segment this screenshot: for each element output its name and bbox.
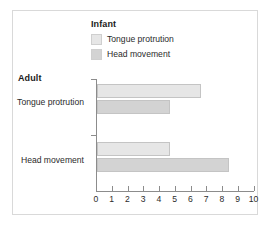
legend-title: Infant (91, 19, 241, 30)
legend-item[interactable]: Head movement (91, 47, 241, 61)
legend-swatch-icon (91, 34, 102, 45)
chart-legend: Infant Tongue protrution Head movement (91, 19, 241, 62)
chart-frame: Infant Tongue protrution Head movement (12, 10, 258, 215)
legend-item-label: Tongue protrution (107, 34, 174, 45)
legend-item[interactable]: Tongue protrution (91, 32, 241, 46)
legend-item-label: Head movement (107, 49, 170, 60)
legend-swatch-icon (91, 49, 102, 60)
